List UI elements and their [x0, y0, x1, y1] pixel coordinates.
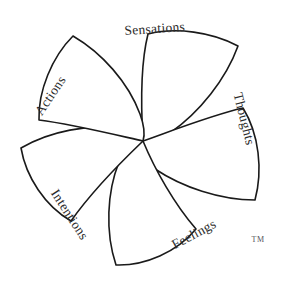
trademark-mark: TM	[251, 235, 264, 244]
pinwheel-diagram: Sensations Thoughts Feelings Intentions …	[0, 0, 284, 284]
pinwheel-svg-canvas: Sensations Thoughts Feelings Intentions …	[0, 0, 284, 284]
